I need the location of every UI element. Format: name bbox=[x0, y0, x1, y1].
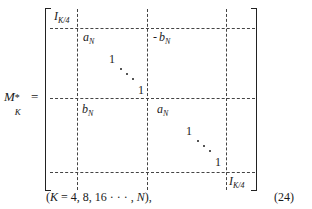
ellipsis-dot bbox=[132, 78, 134, 80]
ellipsis-dot bbox=[203, 145, 205, 147]
equation-number: (24) bbox=[274, 190, 294, 205]
matrix-label: M*K = bbox=[4, 89, 38, 105]
entry-a-lower: aN bbox=[157, 102, 168, 118]
matrix-superscript: * bbox=[15, 92, 20, 103]
entry-b-upper: -bN bbox=[153, 30, 170, 46]
matrix-subscript: K bbox=[15, 107, 21, 117]
ellipsis-dot bbox=[120, 68, 122, 70]
left-bracket bbox=[45, 8, 51, 191]
equation-condition: (K = 4, 8, 16 · · · , N), bbox=[46, 190, 152, 205]
partition-line-h1 bbox=[50, 28, 255, 29]
ellipsis-dot bbox=[197, 140, 199, 142]
partition-line-v1 bbox=[77, 9, 78, 190]
ellipsis-dot bbox=[209, 150, 211, 152]
diagonal-upper-end: 1 bbox=[138, 83, 144, 98]
entry-b-lower: bN bbox=[82, 102, 93, 118]
equals-sign: = bbox=[31, 89, 38, 104]
identity-block-top-left: IK/4 bbox=[54, 9, 70, 25]
diagonal-lower-start: 1 bbox=[186, 124, 192, 139]
matrix-symbol: M bbox=[4, 89, 15, 104]
partition-line-h2 bbox=[50, 98, 255, 99]
partition-line-v2 bbox=[147, 9, 148, 190]
diagonal-lower-end: 1 bbox=[215, 155, 221, 170]
right-bracket bbox=[251, 8, 257, 191]
partition-line-h3 bbox=[50, 172, 255, 173]
ellipsis-dot bbox=[126, 73, 128, 75]
identity-block-bottom-right: IK/4 bbox=[229, 174, 245, 190]
partition-line-v3 bbox=[226, 9, 227, 190]
diagonal-upper-start: 1 bbox=[109, 52, 115, 67]
entry-a-upper: aN bbox=[83, 30, 94, 46]
